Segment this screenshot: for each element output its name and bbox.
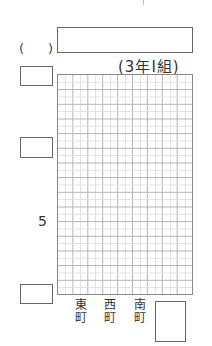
- y-axis-top-box[interactable]: [20, 66, 53, 86]
- top-edge-mark: [143, 0, 144, 5]
- chart-title-input-box[interactable]: [57, 27, 193, 53]
- bar-chart-grid[interactable]: [57, 74, 193, 295]
- category-char: 町: [74, 312, 88, 325]
- y-axis-bottom-box[interactable]: [20, 284, 53, 304]
- category-label-higashimachi: 東 町: [74, 299, 88, 325]
- category-label-nishimachi: 西 町: [103, 299, 117, 325]
- category-char: 町: [133, 312, 147, 325]
- category-char: 町: [103, 312, 117, 325]
- grid-lines: [58, 75, 192, 294]
- unit-paren-open: (: [19, 41, 24, 56]
- unit-paren-close: ): [48, 41, 53, 56]
- extra-category-input-box[interactable]: [155, 301, 186, 342]
- y-axis-middle-box[interactable]: [20, 137, 53, 158]
- class-label: (3年Ⅰ組): [118, 55, 180, 76]
- y-tick-label-5: 5: [38, 213, 47, 229]
- category-label-minamimachi: 南 町: [133, 299, 147, 325]
